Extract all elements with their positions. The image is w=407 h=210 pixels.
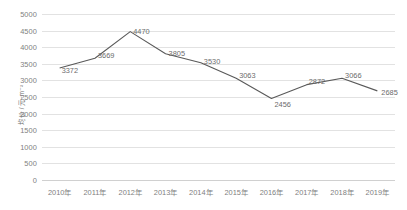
x-axis-tick-label: 2019年 [366, 186, 389, 197]
series-line [42, 14, 395, 180]
y-axis-tick-label: 0 [3, 176, 37, 185]
y-axis-tick-label: 1500 [3, 126, 37, 135]
y-axis-tick-label: 1000 [3, 142, 37, 151]
data-point-label: 4470 [133, 26, 149, 35]
x-axis-tick-label: 2017年 [295, 186, 318, 197]
x-axis-tick-label: 2011年 [83, 186, 106, 197]
data-point-label: 3805 [169, 48, 185, 57]
y-axis-tick-label: 5000 [3, 10, 37, 19]
data-point-label: 3530 [204, 56, 220, 65]
x-axis-tick-label: 2016年 [260, 186, 283, 197]
x-axis-tick-label: 2014年 [189, 186, 212, 197]
y-axis-tick-label: 2500 [3, 93, 37, 102]
y-axis-tick-label: 3000 [3, 76, 37, 85]
data-point-label: 3372 [62, 66, 78, 75]
data-point-label: 3063 [239, 71, 255, 80]
x-axis-tick-label: 2012年 [119, 186, 142, 197]
data-point-label: 3669 [98, 51, 114, 60]
plot-area: 5000450040003500300025002000150010005000… [42, 14, 395, 180]
data-point-label: 2872 [309, 76, 325, 85]
y-axis-tick-label: 500 [3, 159, 37, 168]
x-axis-tick-label: 2010年 [48, 186, 71, 197]
y-axis-title: 均价 / 元·m⁻² [16, 85, 26, 125]
x-axis-tick-label: 2013年 [154, 186, 177, 197]
x-axis-tick-label: 2015年 [224, 186, 247, 197]
data-point-label: 3066 [345, 71, 361, 80]
y-axis-tick-label: 3500 [3, 59, 37, 68]
y-axis-tick-label: 4000 [3, 43, 37, 52]
gridline [42, 180, 395, 181]
y-axis-tick-label: 2000 [3, 109, 37, 118]
data-point-label: 2456 [274, 100, 290, 109]
data-point-label: 2685 [381, 87, 397, 96]
y-axis-tick-label: 4500 [3, 26, 37, 35]
x-axis-tick-label: 2018年 [330, 186, 353, 197]
line-chart: 均价 / 元·m⁻² 50004500400035003000250020001… [0, 0, 407, 210]
